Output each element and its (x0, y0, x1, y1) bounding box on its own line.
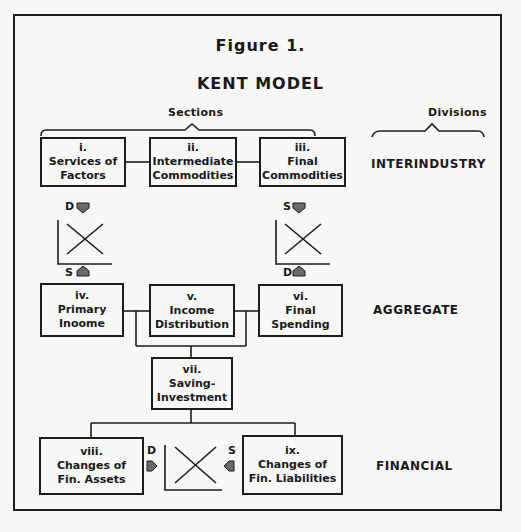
commodity-market-axes (276, 220, 330, 264)
division-aggregate: AGGREGATE (373, 303, 459, 317)
box-label-line2: Inoome (59, 317, 105, 331)
box-changes-fin-liabilities: ix. Changes of Fin. Liabilities (242, 435, 343, 495)
box-numeral: viii. (80, 445, 103, 459)
demand-down-marker-icon (77, 203, 89, 213)
supply-left-marker-icon (224, 461, 234, 471)
box-label-line1: Services of (49, 155, 117, 169)
demand-up-marker-icon (293, 266, 305, 276)
box-label-line1: Intermediate (153, 155, 234, 169)
box-numeral: vii. (183, 363, 202, 377)
commodity-supply-label: S (283, 200, 291, 213)
box-numeral: ii. (187, 141, 199, 155)
box-label-line2: Fin. Assets (58, 473, 126, 487)
sections-brace (41, 124, 315, 136)
box-intermediate-commodities: ii. Intermediate Commodities (149, 137, 237, 187)
demand-right-marker-icon (147, 461, 157, 471)
division-interindustry: INTERINDUSTRY (371, 157, 486, 171)
box-label-line1: Final (285, 304, 315, 318)
factor-market-axes (58, 220, 112, 264)
commodity-demand-label: D (283, 266, 292, 279)
box-numeral: v. (187, 290, 197, 304)
financial-demand-label: D (147, 444, 156, 457)
box-label-line1: Changes of (57, 459, 126, 473)
box-label-line1: Final (287, 155, 317, 169)
box-label-line2: Spending (271, 318, 329, 332)
factor-demand-label: D (65, 200, 74, 213)
box-services-of-factors: i. Services of Factors (40, 137, 126, 187)
box-numeral: iii. (295, 141, 311, 155)
box-label-line2: Distribution (155, 318, 229, 332)
supply-down-marker-icon (293, 203, 305, 213)
box-label-line2: Investment (157, 391, 227, 405)
box-numeral: ix. (285, 444, 300, 458)
box-label-line1: Changes of (258, 458, 327, 472)
box-label-line2: Commodities (262, 169, 343, 183)
box-final-spending: vi. Final Spending (258, 284, 343, 337)
box-label-line2: Fin. Liabilities (249, 472, 337, 486)
box-label-line1: Income (170, 304, 215, 318)
box-label-line2: Commodities (153, 169, 234, 183)
financial-supply-label: S (228, 444, 236, 457)
box-numeral: iv. (75, 289, 89, 303)
division-financial: FINANCIAL (376, 459, 453, 473)
box-label-line1: Saving- (169, 377, 216, 391)
box-numeral: i. (79, 141, 87, 155)
box-changes-fin-assets: viii. Changes of Fin. Assets (39, 437, 144, 495)
divisions-brace (372, 124, 484, 137)
box-income-distribution: v. Income Distribution (149, 284, 235, 337)
box-primary-income: iv. Primary Inoome (40, 283, 124, 337)
box-label-line2: Factors (60, 169, 106, 183)
box-numeral: vi. (293, 290, 308, 304)
factor-supply-label: S (65, 266, 73, 279)
box-label-line1: Primary (58, 303, 107, 317)
box-final-commodities: iii. Final Commodities (259, 137, 346, 187)
box-saving-investment: vii. Saving- Investment (151, 357, 233, 410)
supply-up-marker-icon (77, 266, 89, 276)
